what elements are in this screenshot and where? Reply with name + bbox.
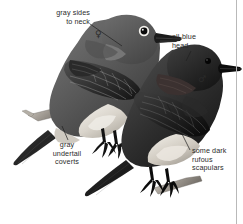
page-margin-rule [236, 0, 237, 224]
annotation-gray-undertail-coverts: gray undertail coverts [44, 141, 90, 167]
annotation-all-blue-head: all-blue head [172, 33, 230, 50]
field-guide-plate: gray sides to neck all-blue head gray un… [0, 0, 243, 224]
male-symbol: ♂ [198, 75, 206, 84]
female-symbol: ♀ [95, 30, 102, 39]
annotation-gray-sides-to-neck: gray sides to neck [36, 9, 90, 26]
